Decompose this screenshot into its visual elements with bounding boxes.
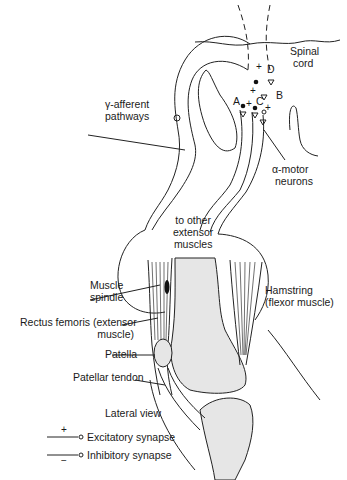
legend-excitatory-sign: + — [61, 424, 67, 436]
legend-inhibitory-label: Inhibitory synapse — [87, 449, 172, 461]
legend-inhibitory-sign: − — [61, 455, 67, 467]
label-hamstring: Hamstring (flexor muscle) — [265, 284, 334, 308]
tibia-bone — [200, 398, 253, 480]
plus-b: + — [265, 102, 271, 114]
label-alpha-motor: α-motor neurons — [272, 163, 313, 187]
marker-d: D — [267, 63, 275, 75]
marker-b: B — [276, 89, 283, 101]
plus-c: + — [250, 85, 256, 97]
marker-c: C — [256, 95, 264, 107]
patella-bone — [154, 339, 172, 367]
label-lateral-view: Lateral view — [105, 407, 161, 419]
plus-a: + — [246, 98, 252, 110]
reflex-arc-diagram: Spinal cord γ-afferent pathways α-motor … — [0, 0, 347, 480]
label-to-other-extensor: to other extensor muscles — [173, 214, 213, 250]
label-rectus-femoris: Rectus femoris (extensor muscle) — [20, 316, 134, 340]
hamstring-fibers — [235, 262, 255, 355]
label-muscle-spindle: Muscle spindle — [90, 279, 123, 303]
rectus-fibers — [152, 262, 168, 340]
label-patellar-tendon: Patellar tendon — [73, 371, 144, 383]
legend-excitatory-label: Excitatory synapse — [87, 431, 175, 443]
label-gamma-afferent: γ-afferent pathways — [105, 98, 149, 122]
plus-d: + — [256, 61, 262, 73]
label-patella: Patella — [105, 348, 137, 360]
marker-a: A — [233, 95, 240, 107]
muscle-spindle-icon — [165, 280, 170, 294]
femur-bone — [171, 258, 246, 393]
label-spinal-cord: Spinal cord — [290, 45, 319, 69]
